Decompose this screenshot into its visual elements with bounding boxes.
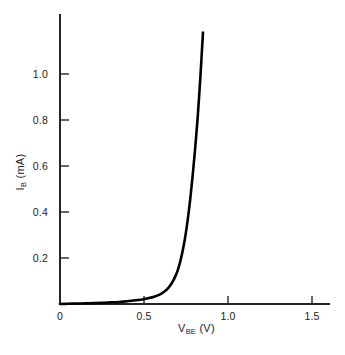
x-axis-title-sub: BE	[186, 327, 196, 336]
y-tick-marks	[60, 74, 69, 258]
x-axis-title-unit: (V)	[199, 322, 215, 334]
y-tick-label-0.8: 0.8	[14, 114, 48, 126]
x-axis-title-main: V	[178, 322, 186, 334]
x-tick-label-0: 0	[44, 310, 76, 322]
x-tick-label-1.5: 1.5	[296, 310, 328, 322]
x-tick-label-1.0: 1.0	[212, 310, 244, 322]
plot-canvas	[0, 0, 345, 355]
x-axis-title: VBE (V)	[178, 322, 215, 334]
y-axis-title: IB (mA)	[14, 154, 26, 191]
data-curve-base-current	[60, 33, 203, 304]
y-axis-title-main: I	[14, 187, 26, 190]
chart-figure: 1.0 0.8 0.6 0.4 0.2 0 0.5 1.0 1.5 IB (mA…	[0, 0, 345, 355]
y-tick-label-1.0: 1.0	[14, 68, 48, 80]
y-tick-label-0.2: 0.2	[14, 252, 48, 264]
y-axis-title-sub: B	[19, 182, 28, 187]
y-axis-title-unit: (mA)	[14, 154, 26, 179]
x-tick-label-0.5: 0.5	[128, 310, 160, 322]
y-axis-title-wrap: IB (mA)	[8, 132, 32, 212]
